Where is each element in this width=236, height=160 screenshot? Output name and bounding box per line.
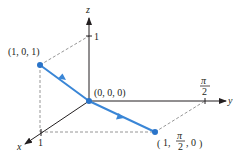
- x-axis-label: x: [16, 141, 22, 152]
- x-tick-label: 1: [38, 137, 43, 148]
- z-tick-label: 1: [94, 31, 99, 42]
- point-origin: [86, 98, 92, 104]
- guide-point-to-z1: [40, 36, 89, 65]
- z-axis-label: z: [85, 4, 90, 15]
- guide-end-to-y-tick: [155, 101, 205, 132]
- point-end: [152, 129, 158, 135]
- paren-left: (: [157, 138, 161, 150]
- point-end-suffix: , 0: [186, 137, 196, 148]
- path-segment-1: [40, 65, 89, 101]
- point-end-denominator: 2: [178, 141, 183, 152]
- y-tick-numerator: π: [201, 75, 207, 86]
- diagram-canvas: z 1 y π 2 x 1 (1, 0, 1) (0, 0, 0) ( 1, π…: [0, 0, 236, 160]
- x-axis: [25, 101, 89, 144]
- point-end-prefix: 1,: [163, 137, 171, 148]
- point-end-label: ( 1, π 2 , 0 ): [157, 130, 202, 152]
- y-axis-label: y: [227, 95, 233, 106]
- paren-right: ): [199, 138, 202, 150]
- y-tick-denominator: 2: [202, 86, 207, 97]
- point-origin-label: (0, 0, 0): [94, 87, 126, 99]
- point-end-numerator: π: [177, 130, 183, 141]
- point-start: [37, 62, 43, 68]
- point-start-label: (1, 0, 1): [8, 46, 40, 58]
- axes: [25, 18, 226, 144]
